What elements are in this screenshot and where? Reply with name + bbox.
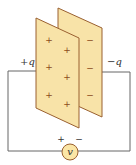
voltage-source: v + −: [57, 134, 83, 160]
source-plus-terminal: +: [57, 134, 65, 144]
front-plate-positive: + + + + + +: [36, 18, 79, 128]
voltage-source-label: v: [67, 146, 73, 157]
plus-sign: +: [63, 45, 71, 55]
minus-sign: −: [86, 90, 94, 100]
source-minus-terminal: −: [75, 134, 83, 144]
minus-sign: −: [86, 35, 94, 45]
plus-sign: +: [45, 35, 53, 45]
capacitor-diagram: − − − + + + + + + +q −q v + −: [0, 0, 136, 165]
plus-sign: +: [63, 72, 71, 82]
minus-sign: −: [86, 63, 94, 73]
positive-charge-label: +q: [20, 56, 35, 67]
negative-charge-label: −q: [107, 56, 122, 67]
plus-sign: +: [45, 90, 53, 100]
plus-sign: +: [63, 99, 71, 109]
plus-sign: +: [45, 62, 53, 72]
